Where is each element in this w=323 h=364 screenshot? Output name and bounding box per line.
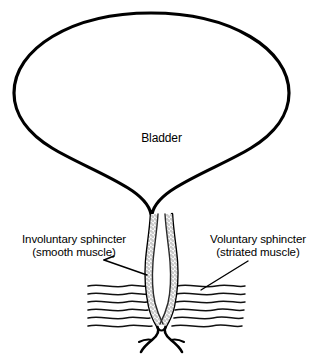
anatomy-illustration (0, 0, 323, 364)
voluntary-sphincter-label-line1: Voluntary sphincter (196, 233, 320, 246)
bladder-outline (14, 13, 289, 214)
muscle-fibers-right (172, 285, 245, 327)
voluntary-sphincter-label-line2: (striated muscle) (196, 246, 320, 259)
urethral-meatus (157, 326, 166, 331)
muscle-fibers-left (88, 285, 152, 327)
leader-line-involuntary (104, 260, 147, 275)
bladder-sphincter-diagram: Bladder Involuntary sphincter (smooth mu… (0, 0, 323, 364)
bladder-label: Bladder (0, 132, 323, 145)
involuntary-sphincter-label: Involuntary sphincter (smooth muscle) (4, 233, 144, 259)
voluntary-sphincter-label: Voluntary sphincter (striated muscle) (196, 233, 320, 259)
involuntary-sphincter-label-line2: (smooth muscle) (4, 246, 144, 259)
involuntary-sphincter-label-line1: Involuntary sphincter (4, 233, 144, 246)
